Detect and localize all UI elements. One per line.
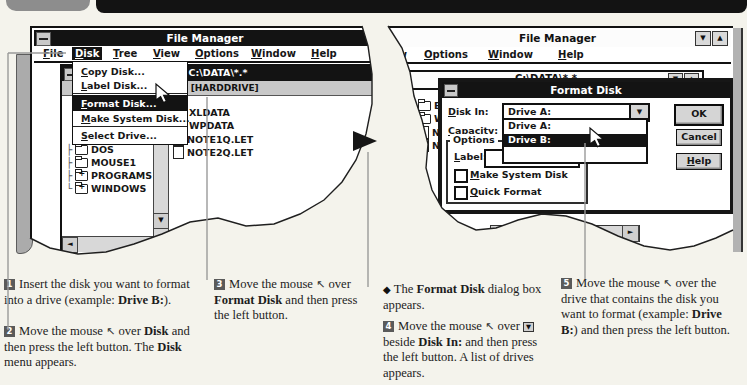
step-5: 5Move the mouse ↖ over the drive that co… <box>561 276 738 338</box>
window-title: File Manager <box>34 32 376 44</box>
make-system-disk-checkbox[interactable] <box>454 169 468 183</box>
tree-item-label: DOS <box>91 144 114 155</box>
step-number-badge: 1 <box>4 279 15 290</box>
note-bullet-icon: ◆ <box>383 284 391 295</box>
label-field-label: Label: <box>454 151 487 162</box>
cancel-button[interactable]: Cancel <box>676 129 722 146</box>
menu-window[interactable]: Window <box>485 48 536 61</box>
menu-item-label-disk[interactable]: Label Disk... <box>73 78 187 92</box>
down-arrow-icon: ▼ <box>158 216 163 224</box>
menu-item-copy-disk[interactable]: Copy Disk... <box>73 64 187 78</box>
window-title: File Manager <box>384 32 731 44</box>
menu-separator <box>73 93 187 94</box>
step-4-text: Move the mouse ↖ over ▼ beside Disk In: … <box>383 319 537 380</box>
document-icon <box>418 139 429 152</box>
menu-options[interactable]: Options <box>192 47 242 60</box>
tree-item-label: MOUSE1 <box>91 157 136 168</box>
menu-options[interactable]: Options <box>421 48 471 61</box>
menu-tree[interactable]: Tree <box>110 47 140 60</box>
maximize-icon: ▲ <box>717 34 722 42</box>
drive-dropdown-list: Drive A: Drive B: <box>502 118 648 164</box>
scroll-left-button[interactable]: ◄ <box>62 237 78 253</box>
maximize-button[interactable]: ▲ <box>712 31 728 46</box>
menu-item-format-disk[interactable]: Format Disk... <box>73 95 187 111</box>
step-3-text: Move the mouse ↖ over Format Disk and th… <box>214 277 357 322</box>
file-item-label: NOTE1Q.LET <box>187 134 253 145</box>
file-item-label: NOTE2Q.LET <box>187 147 253 158</box>
tree-connector: ├ <box>66 170 72 181</box>
step-number-badge: 5 <box>561 278 572 289</box>
quick-format-checkbox[interactable] <box>454 186 468 200</box>
folder-plus-icon <box>75 184 88 194</box>
step-1: 1Insert the disk you want to format into… <box>4 277 204 308</box>
mouse-cursor-glyph: ↖ <box>106 325 115 338</box>
document-icon <box>173 146 184 159</box>
make-system-disk-label: Make System Disk <box>470 169 568 180</box>
folder-icon <box>75 145 88 155</box>
folder-plus-icon <box>75 171 88 181</box>
menu-view-cut[interactable]: ew <box>388 48 410 61</box>
dialog-appears-note: ◆The Format Disk dialog box appears. <box>383 282 551 313</box>
mouse-cursor-glyph: ↖ <box>316 278 325 291</box>
file-item[interactable]: N <box>418 139 440 152</box>
menu-help[interactable]: Help <box>308 47 340 60</box>
ok-button[interactable]: OK <box>674 104 724 126</box>
dialog-titlebar[interactable]: Format Disk <box>442 82 730 98</box>
tree-item-label: WINDOWS <box>91 183 146 194</box>
menu-item-select-drive[interactable]: Select Drive... <box>73 128 187 142</box>
menu-bar: ew Options Window Help <box>384 47 731 64</box>
step-2-text: Move the mouse ↖ over Disk and then pres… <box>4 324 190 369</box>
file-item-label: WPDATA <box>189 120 234 131</box>
mouse-cursor-glyph: ↖ <box>663 277 672 290</box>
tree-connector: └ <box>66 183 72 194</box>
menu-help[interactable]: Help <box>555 48 587 61</box>
file-item[interactable]: NOTE2Q.LET <box>173 146 253 159</box>
disk-menu-dropdown: Copy Disk... Label Disk... Format Disk..… <box>72 61 188 145</box>
quick-format-label: Quick Format <box>470 186 542 197</box>
step-number-badge: 3 <box>214 279 225 290</box>
file-item[interactable]: N <box>418 126 440 139</box>
step-5-text: Move the mouse ↖ over the drive that con… <box>561 276 730 337</box>
scroll-right-button[interactable]: ► <box>622 225 639 242</box>
scroll-down-button[interactable]: ▼ <box>153 213 169 229</box>
tree-item-label: PROGRAMS <box>91 170 152 181</box>
menu-separator <box>73 126 187 127</box>
format-disk-dialog: Format Disk Disk In: Drive A: ▼ Capacity… <box>438 78 734 214</box>
file-item-label: XLDATA <box>189 107 230 118</box>
menu-view[interactable]: View <box>150 47 183 60</box>
dropdown-button-glyph: ▼ <box>523 322 534 332</box>
menu-file[interactable]: File <box>40 47 67 60</box>
page-header-tab <box>6 0 90 11</box>
mouse-cursor-glyph: ↖ <box>485 320 494 333</box>
step-2: 2Move the mouse ↖ over Disk and then pre… <box>4 324 209 371</box>
tree-connector: ├ <box>66 157 72 168</box>
screenshot-left: File Manager File Disk Tree View Options… <box>30 26 378 260</box>
menu-window[interactable]: Window <box>248 47 299 60</box>
folder-icon <box>418 114 431 124</box>
step-1-text: Insert the disk you want to format into … <box>4 277 190 307</box>
step-number-badge: 2 <box>4 326 15 337</box>
step-number-badge: 4 <box>383 321 394 332</box>
menu-item-make-system-disk[interactable]: Make System Disk... <box>73 111 187 125</box>
window-titlebar[interactable]: File Manager <box>34 30 376 46</box>
horizontal-scrollbar[interactable] <box>490 225 640 242</box>
menu-disk[interactable]: Disk <box>72 47 102 60</box>
drive-option-a[interactable]: Drive A: <box>504 120 646 134</box>
note-text: The Format Disk dialog box appears. <box>383 282 541 312</box>
folder-icon <box>75 158 88 168</box>
tree-item[interactable]: └ WINDOWS <box>66 183 146 194</box>
tree-item[interactable]: ├ MOUSE1 <box>66 157 136 168</box>
help-button[interactable]: Help <box>676 153 722 170</box>
drive-option-empty[interactable] <box>504 147 646 161</box>
folder-icon <box>418 101 431 111</box>
screenshot-right: File Manager ▼ ▲ ew Options Window Help … <box>384 26 735 260</box>
step-3: 3Move the mouse ↖ over Format Disk and t… <box>214 277 372 324</box>
tree-item[interactable]: ├ PROGRAMS <box>66 170 152 181</box>
drive-option-b[interactable]: Drive B: <box>504 134 646 148</box>
minimize-icon: ▼ <box>700 34 705 42</box>
minimize-button[interactable]: ▼ <box>695 31 711 46</box>
tree-connector: ├ <box>66 144 72 155</box>
options-group-label: Options <box>450 134 498 145</box>
page-header-bar <box>96 0 747 13</box>
tree-item[interactable]: ├ DOS <box>66 144 114 155</box>
